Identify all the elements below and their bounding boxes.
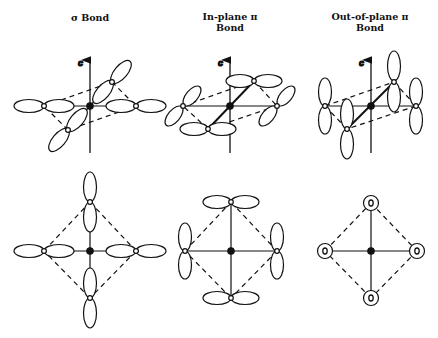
- center-atom: [87, 248, 93, 254]
- sigma-top-view: [14, 172, 166, 328]
- center-atom: [228, 248, 234, 254]
- outofplane-pi-top-view: [318, 196, 425, 306]
- sigma-3d-diagram: c: [14, 57, 166, 155]
- center-atom: [368, 248, 374, 254]
- c-axis-label: c: [359, 58, 364, 68]
- c-axis-label: c: [218, 58, 223, 68]
- center-atom: [87, 103, 93, 109]
- inplane-pi-3d-diagram: c: [162, 58, 299, 153]
- center-atom: [227, 103, 233, 109]
- center-atom: [368, 103, 374, 109]
- c-axis-label: c: [78, 58, 83, 68]
- inplane-pi-top-view: [179, 196, 284, 305]
- outofplane-pi-3d-diagram: c: [319, 51, 423, 159]
- diagram-canvas: c c: [0, 0, 438, 338]
- orbital-bonding-figure: σ Bond In-plane π Bond Out-of-plane π Bo…: [0, 0, 438, 338]
